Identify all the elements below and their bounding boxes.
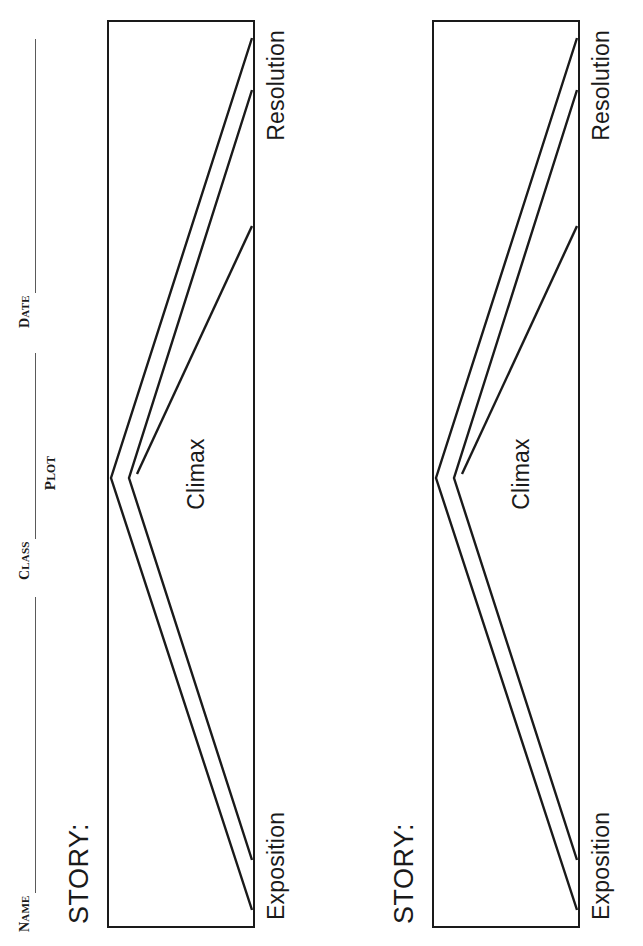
plot-diagram-graphic-1 [109,22,253,926]
denouement-line-2 [462,226,577,474]
outer-plot-arc-2 [436,38,577,910]
plot-mountain-shape-2 [434,22,578,926]
exposition-label-2: Exposition [590,812,613,920]
worksheet-page: NAME CLASS DATE PLOT STORY: E [0,0,643,946]
resolution-label-1: Resolution [265,30,288,141]
plot-diagram-2: Exposition Climax Resolution [432,20,580,928]
plot-diagram-graphic-2 [434,22,578,926]
climax-label-2: Climax [510,438,533,509]
plot-section-1: STORY: Exposition Climax Resolution [2,0,298,946]
exposition-label-1: Exposition [265,812,288,920]
rotated-page-canvas: NAME CLASS DATE PLOT STORY: E [0,0,643,946]
denouement-line-1 [137,226,252,474]
outer-plot-arc-1 [111,38,252,910]
resolution-label-2: Resolution [590,30,613,141]
plot-diagram-1: Exposition Climax Resolution [107,20,255,928]
plot-section-2: STORY: Exposition Climax Resolution [327,0,623,946]
story-label-1: STORY: [64,823,95,924]
climax-label-1: Climax [185,438,208,509]
story-label-2: STORY: [389,823,420,924]
plot-mountain-shape-1 [109,22,253,926]
